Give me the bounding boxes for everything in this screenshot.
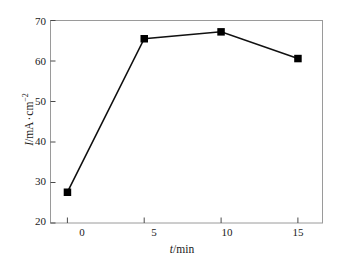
y-tick-label-20: 20 xyxy=(24,216,46,227)
y-axis-title-unit2: cm xyxy=(23,102,35,116)
data-point-marker xyxy=(141,35,149,43)
y-axis-title-exponent: −2 xyxy=(21,93,30,102)
x-axis-title-unit: /min xyxy=(173,243,194,255)
y-tick-label-70: 70 xyxy=(24,16,46,27)
x-tick-label-5: 5 xyxy=(142,227,166,238)
x-tick-label-15: 15 xyxy=(286,227,310,238)
chart-figure: 70 60 50 40 30 20 0 5 10 15 t/min I/mA·c… xyxy=(0,0,344,268)
y-axis-title: I/mA·cm−2 xyxy=(23,60,36,180)
plot-frame xyxy=(51,21,323,224)
y-axis-title-middot: · xyxy=(23,116,35,122)
y-axis-title-unit: /mA xyxy=(23,122,35,142)
x-tick-label-0: 0 xyxy=(70,227,94,238)
x-tick-label-10: 10 xyxy=(215,227,239,238)
data-point-marker xyxy=(294,55,302,63)
y-axis-title-symbol: I xyxy=(23,142,35,146)
data-point-marker xyxy=(64,189,71,197)
x-axis-title: t/min xyxy=(122,243,242,256)
data-point-marker xyxy=(217,28,225,35)
